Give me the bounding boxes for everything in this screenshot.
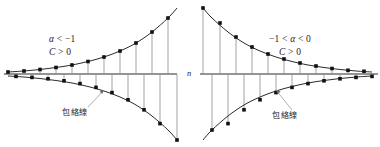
data-point-marker <box>126 98 130 102</box>
data-point-marker <box>22 69 26 73</box>
data-point-marker <box>166 16 170 20</box>
data-point-marker <box>218 21 222 25</box>
data-point-marker <box>175 138 179 142</box>
data-point-marker <box>78 82 82 86</box>
right-alpha-rest: < 0 <box>295 34 311 44</box>
envelope-label-right: 包絡線 <box>272 112 298 120</box>
data-point-marker <box>282 57 286 61</box>
envelope-label-left: 包絡線 <box>62 109 88 117</box>
data-point-marker <box>102 55 106 59</box>
data-point-marker <box>250 45 254 49</box>
data-point-marker <box>142 108 146 112</box>
right-alpha-pre: −1 < <box>269 34 290 44</box>
data-point-marker <box>30 76 34 80</box>
data-point-marker <box>86 60 90 64</box>
data-point-marker <box>242 108 246 112</box>
data-point-marker <box>362 70 366 74</box>
data-point-marker <box>62 79 66 83</box>
data-point-marker <box>306 82 310 86</box>
data-point-marker <box>94 86 98 90</box>
data-point-marker <box>158 122 162 126</box>
data-point-marker <box>226 122 230 126</box>
data-point-marker <box>201 6 205 10</box>
data-point-marker <box>338 77 342 81</box>
left-condition-c: C > 0 <box>49 48 71 58</box>
left-alpha-relation: < −1 <box>54 34 75 44</box>
data-point-marker <box>266 52 270 56</box>
data-point-marker <box>298 61 302 65</box>
data-point-marker <box>258 98 262 102</box>
data-point-marker <box>70 63 74 67</box>
left-condition-alpha: α < −1 <box>49 35 75 45</box>
data-point-marker <box>346 69 350 73</box>
right-condition-c: C > 0 <box>279 48 301 58</box>
data-point-marker <box>14 75 18 79</box>
data-point-marker <box>6 70 10 74</box>
data-point-marker <box>330 67 334 71</box>
right-c-relation: > 0 <box>286 47 302 57</box>
data-point-marker <box>46 77 50 81</box>
data-point-marker <box>110 91 114 95</box>
right-condition-alpha: −1 < α < 0 <box>269 35 311 45</box>
data-point-marker <box>210 128 214 132</box>
data-point-marker <box>118 49 122 53</box>
left-plot-group <box>6 8 179 142</box>
data-point-marker <box>322 79 326 83</box>
data-point-markers <box>6 16 179 142</box>
envelope-curve <box>8 76 177 140</box>
left-c-relation: > 0 <box>56 47 72 57</box>
data-point-marker <box>370 75 374 79</box>
data-point-marker <box>38 68 42 72</box>
data-point-marker <box>54 66 58 70</box>
n-axis-label: n <box>187 69 191 78</box>
data-point-marker <box>290 86 294 90</box>
data-point-marker <box>134 41 138 45</box>
data-point-marker <box>150 30 154 34</box>
data-point-marker <box>354 76 358 80</box>
data-point-marker <box>234 35 238 39</box>
data-point-marker <box>314 64 318 68</box>
